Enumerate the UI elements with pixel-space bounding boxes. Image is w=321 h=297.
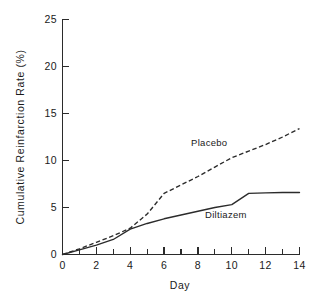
x-tick-label-10: 10 [226, 259, 238, 271]
series-line-diltiazem [63, 192, 300, 254]
line-chart-canvas: 0 5 10 15 20 25 0 2 [0, 0, 321, 297]
y-axis-ticks: 0 5 10 15 20 25 [45, 13, 69, 260]
y-tick-label-15: 15 [45, 107, 57, 119]
y-tick-label-25: 25 [45, 13, 57, 25]
x-tick-label-2: 2 [93, 259, 99, 271]
y-axis-title: Cumulative Reinfarction Rate (%) [14, 49, 26, 224]
x-tick-label-6: 6 [161, 259, 167, 271]
x-axis-ticks: 0 2 4 6 8 10 12 14 [59, 247, 305, 271]
x-tick-label-4: 4 [127, 259, 133, 271]
x-tick-label-14: 14 [293, 259, 305, 271]
chart-figure: 0 5 10 15 20 25 0 2 [0, 0, 321, 297]
y-tick-label-0: 0 [51, 248, 57, 260]
x-tick-label-0: 0 [59, 259, 65, 271]
x-tick-label-12: 12 [259, 259, 271, 271]
x-axis-minor-ticks [79, 249, 282, 255]
x-axis-title: Day [170, 279, 191, 291]
x-tick-label-8: 8 [195, 259, 201, 271]
series-line-placebo [63, 129, 300, 255]
series-label-placebo: Placebo [191, 137, 227, 148]
series-label-diltiazem: Diltiazem [205, 209, 247, 220]
y-tick-label-20: 20 [45, 60, 57, 72]
y-tick-label-5: 5 [51, 201, 57, 213]
y-tick-label-10: 10 [45, 154, 57, 166]
